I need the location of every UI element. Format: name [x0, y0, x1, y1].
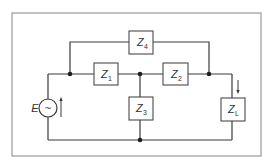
- node-left: [68, 72, 73, 77]
- svg-text:1: 1: [108, 75, 112, 82]
- voltage-source: ~ E: [31, 97, 62, 117]
- impedance-z3: Z 3: [129, 97, 153, 120]
- svg-text:L: L: [235, 110, 239, 117]
- impedance-z4: Z 4: [129, 31, 153, 54]
- load-arrow-down-icon: [236, 80, 239, 94]
- svg-text:2: 2: [178, 75, 182, 82]
- source-label: E: [31, 102, 39, 114]
- node-right: [207, 72, 212, 77]
- ac-tilde-icon: ~: [45, 102, 51, 114]
- impedance-z2: Z 2: [163, 63, 188, 85]
- svg-text:3: 3: [143, 109, 147, 116]
- impedance-zl: Z L: [221, 98, 245, 121]
- svg-text:4: 4: [144, 43, 148, 50]
- circuit-diagram: ~ E Z 4 Z 1 Z 2 Z 3 Z L: [0, 0, 275, 168]
- node-bottom: [138, 138, 143, 143]
- impedance-z1: Z 1: [94, 63, 118, 85]
- node-middle: [138, 72, 143, 77]
- wires: [48, 42, 232, 140]
